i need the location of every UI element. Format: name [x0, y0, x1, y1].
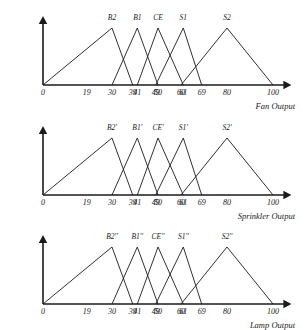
set-label: CE — [153, 13, 163, 22]
set-label: S2'' — [222, 232, 233, 241]
membership-curve — [43, 247, 133, 304]
membership-curve — [43, 28, 133, 85]
set-label: S2' — [222, 123, 231, 132]
x-tick-label: 100 — [267, 198, 279, 207]
chart-2: B2'B1'CE'S1'S2'019303941495060616980100S… — [0, 110, 303, 220]
x-tick-label: 69 — [198, 307, 206, 316]
x-tick-label: 0 — [41, 88, 45, 97]
x-axis-arrowhead — [283, 191, 291, 199]
x-tick-label: 19 — [83, 307, 91, 316]
x-tick-label: 80 — [223, 88, 231, 97]
membership-curve — [156, 247, 202, 304]
x-tick-label: 50 — [154, 88, 162, 97]
x-axis-arrowhead — [283, 81, 291, 89]
x-tick-label: 100 — [267, 307, 279, 316]
y-axis-arrowhead — [39, 126, 47, 134]
x-tick-label: 100 — [267, 88, 279, 97]
set-label: S1' — [179, 123, 188, 132]
membership-curve — [112, 28, 158, 85]
chart-1: B2B1CES1S2019303941495060616980100Fan Ou… — [0, 0, 303, 110]
x-tick-label: 80 — [223, 198, 231, 207]
set-label: CE' — [152, 123, 163, 132]
x-tick-label: 61 — [179, 198, 187, 207]
x-tick-label: 61 — [179, 307, 187, 316]
x-axis-arrowhead — [283, 300, 291, 308]
membership-curve — [112, 247, 158, 304]
x-tick-label: 50 — [154, 198, 162, 207]
set-label: S1 — [180, 13, 188, 22]
membership-curve — [156, 138, 202, 195]
x-tick-label: 80 — [223, 307, 231, 316]
set-label: B1 — [133, 13, 141, 22]
x-tick-label: 19 — [83, 88, 91, 97]
x-tick-label: 30 — [108, 198, 116, 207]
x-tick-label: 50 — [154, 307, 162, 316]
x-tick-label: 19 — [83, 198, 91, 207]
set-label: B1'' — [132, 232, 144, 241]
x-tick-label: 0 — [41, 198, 45, 207]
membership-curve — [181, 28, 273, 85]
membership-curve — [112, 138, 158, 195]
set-label: B2'' — [106, 232, 118, 241]
x-tick-label: 41 — [133, 307, 141, 316]
membership-curve — [181, 138, 273, 195]
set-label: B2' — [107, 123, 117, 132]
chart-3: B2''B1''CE''S1''S2''01930394149506061698… — [0, 219, 303, 329]
x-tick-label: 0 — [41, 307, 45, 316]
y-axis-arrowhead — [39, 235, 47, 243]
membership-curve — [43, 138, 133, 195]
x-tick-label: 41 — [133, 88, 141, 97]
y-axis-arrowhead — [39, 16, 47, 24]
membership-curve — [181, 247, 273, 304]
set-label: S2 — [223, 13, 231, 22]
x-tick-label: 69 — [198, 198, 206, 207]
membership-curve — [156, 28, 202, 85]
set-label: CE'' — [152, 232, 165, 241]
x-tick-label: 61 — [179, 88, 187, 97]
set-label: S1'' — [178, 232, 189, 241]
x-tick-label: 41 — [133, 198, 141, 207]
x-tick-label: 30 — [108, 88, 116, 97]
x-tick-label: 69 — [198, 88, 206, 97]
set-label: B1' — [132, 123, 142, 132]
set-label: B2 — [108, 13, 116, 22]
x-tick-label: 30 — [108, 307, 116, 316]
x-axis-caption: Lamp Output — [250, 320, 295, 330]
